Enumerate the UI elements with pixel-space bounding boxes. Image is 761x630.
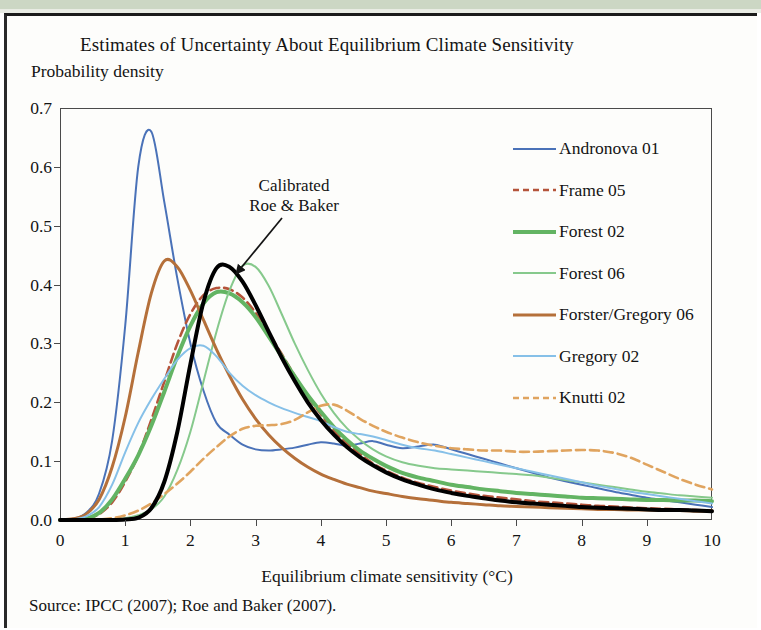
y-axis-title: Probability density — [31, 61, 164, 82]
x-tick-label: 1 — [105, 530, 145, 551]
legend-item-label: Gregory 02 — [557, 346, 639, 367]
figure-inner: Estimates of Uncertainty About Equilibri… — [7, 16, 757, 628]
legend-item[interactable]: Gregory 02 — [512, 336, 742, 378]
legend-item-label: Forest 02 — [557, 221, 625, 242]
x-tick-mark — [386, 520, 387, 526]
y-tick-label: 0.1 — [10, 451, 52, 472]
y-tick-mark — [54, 343, 60, 344]
legend-item[interactable]: Forest 06 — [512, 253, 742, 295]
x-tick-label: 9 — [627, 530, 667, 551]
x-tick-label: 4 — [301, 530, 341, 551]
legend-item[interactable]: Andronova 01 — [512, 128, 742, 170]
x-tick-label: 0 — [40, 530, 80, 551]
annotation-calibrated-roe-baker: Calibrated Roe & Baker — [219, 176, 369, 215]
legend-item-label: Knutti 02 — [557, 387, 626, 408]
y-tick-label: 0.4 — [10, 274, 52, 295]
y-tick-mark — [54, 461, 60, 462]
legend-item[interactable]: Forster/Gregory 06 — [512, 294, 742, 336]
y-tick-mark — [54, 167, 60, 168]
legend-item[interactable]: Knutti 02 — [512, 377, 742, 419]
annotation-line-1: Calibrated — [219, 176, 369, 196]
legend-line-swatch — [512, 183, 557, 197]
x-tick-mark — [647, 520, 648, 526]
x-tick-mark — [256, 520, 257, 526]
legend-line-swatch — [512, 142, 557, 156]
y-tick-label: 0.5 — [10, 215, 52, 236]
legend-item[interactable]: Forest 02 — [512, 211, 742, 253]
x-tick-mark — [125, 520, 126, 526]
legend-item[interactable]: Frame 05 — [512, 170, 742, 212]
x-tick-mark — [451, 520, 452, 526]
y-tick-mark — [54, 285, 60, 286]
scan-artifact-top-band — [0, 0, 761, 9]
legend-line-swatch — [512, 391, 557, 405]
y-tick-label: 0.3 — [10, 333, 52, 354]
figure-frame: Estimates of Uncertainty About Equilibri… — [4, 13, 757, 628]
x-axis-title: Equilibrium climate sensitivity (°C) — [57, 566, 717, 587]
legend-line-swatch — [512, 266, 557, 280]
x-tick-label: 3 — [236, 530, 276, 551]
chart-title: Estimates of Uncertainty About Equilibri… — [7, 34, 647, 56]
x-tick-mark — [582, 520, 583, 526]
y-tick-mark — [54, 402, 60, 403]
x-tick-label: 5 — [366, 530, 406, 551]
y-tick-label: 0.7 — [10, 98, 52, 119]
legend-item-label: Frame 05 — [557, 180, 626, 201]
y-tick-label: 0.2 — [10, 392, 52, 413]
y-tick-mark — [54, 226, 60, 227]
x-tick-label: 7 — [496, 530, 536, 551]
x-tick-label: 8 — [562, 530, 602, 551]
source-note: Source: IPCC (2007); Roe and Baker (2007… — [29, 596, 336, 616]
x-tick-mark — [321, 520, 322, 526]
x-tick-label: 2 — [170, 530, 210, 551]
x-tick-label: 10 — [692, 530, 732, 551]
legend-item-label: Forest 06 — [557, 263, 625, 284]
legend-line-swatch — [512, 308, 557, 322]
legend-line-swatch — [512, 225, 557, 239]
legend-item-label: Forster/Gregory 06 — [557, 304, 694, 325]
y-tick-label: 0.0 — [10, 510, 52, 531]
annotation-arrow-icon — [212, 212, 322, 302]
x-tick-label: 6 — [431, 530, 471, 551]
x-tick-mark — [190, 520, 191, 526]
legend-item-label: Andronova 01 — [557, 138, 660, 159]
x-tick-mark — [516, 520, 517, 526]
y-tick-label: 0.6 — [10, 156, 52, 177]
legend-line-swatch — [512, 349, 557, 363]
chart-legend: Andronova 01Frame 05Forest 02Forest 06Fo… — [512, 128, 742, 419]
